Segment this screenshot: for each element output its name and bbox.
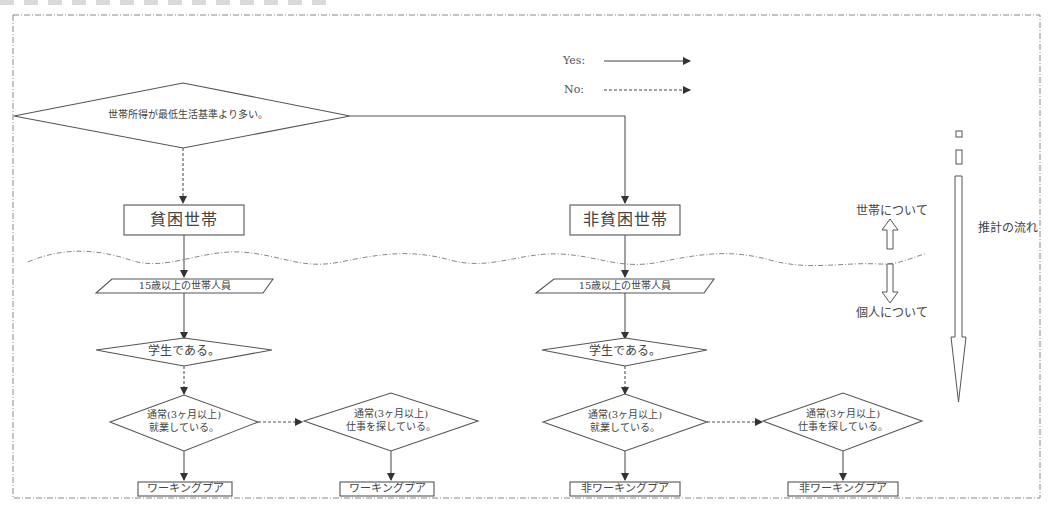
legend-yes-label: Yes: (563, 54, 585, 67)
employed-right-line1: 通常(3ヶ月以上) (575, 409, 675, 421)
employed-left-line2: 就業している。 (134, 422, 234, 434)
legend-no-label: No: (564, 83, 584, 96)
income-decision-text: 世帯所得が最低生活基準より多い。 (108, 109, 258, 121)
seeking-right-line2: 仕事を探している。 (788, 421, 898, 433)
flowchart-canvas (0, 0, 1057, 515)
student-right-label: 学生である。 (575, 344, 675, 358)
members-left-label: 15歳以上の世帯人員 (110, 280, 260, 292)
outcome-left-seeking: ワーキングプア (340, 482, 434, 495)
outcome-right-employed: 非ワーキングプア (570, 482, 680, 495)
nonpoor-household-label: 非貧困世帯 (570, 210, 680, 229)
yes-connector-nonpoor (350, 116, 625, 203)
household-up-arrow-icon (882, 219, 898, 249)
flow-dot-medium (956, 150, 962, 164)
individual-down-arrow-icon (882, 264, 898, 303)
seeking-left-line2: 仕事を探している。 (336, 421, 446, 433)
outcome-left-employed: ワーキングプア (138, 482, 232, 495)
poor-household-label: 貧困世帯 (124, 210, 244, 229)
employed-left-line1: 通常(3ヶ月以上) (134, 409, 234, 421)
household-level-label: 世帯について (852, 204, 932, 218)
flow-dot-small (956, 131, 962, 137)
outcome-right-seeking: 非ワーキングプア (788, 482, 898, 495)
estimation-flow-label: 推計の流れ (978, 221, 1038, 235)
household-individual-divider (28, 251, 925, 265)
student-left-label: 学生である。 (134, 344, 234, 358)
seeking-right-line1: 通常(3ヶ月以上) (788, 408, 898, 420)
employed-right-line2: 就業している。 (575, 422, 675, 434)
members-right-label: 15歳以上の世帯人員 (550, 280, 700, 292)
individual-level-label: 個人について (852, 306, 932, 320)
seeking-left-line1: 通常(3ヶ月以上) (336, 408, 446, 420)
estimation-flow-arrow-icon (951, 176, 966, 402)
